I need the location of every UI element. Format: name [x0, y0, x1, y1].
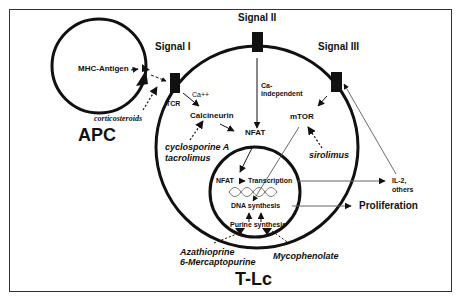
- signal1-label: Signal I: [155, 42, 191, 52]
- t-lymphocyte-label: T-Lc: [235, 270, 272, 288]
- purine-synthesis-label: Purine synthesis: [230, 221, 286, 228]
- signal3-receptor-icon: [331, 72, 342, 92]
- apc-label: APC: [78, 126, 116, 144]
- mtor-label: mTOR: [290, 113, 314, 121]
- dna-helix-icon: [229, 188, 277, 197]
- ca-independent-label-1: Ca-: [261, 82, 272, 89]
- mercaptopurine-label: 6-Mercaptopurine: [180, 258, 256, 267]
- proliferation-label: Proliferation: [359, 201, 418, 211]
- calcineurin-label: Calcineurin: [190, 112, 234, 120]
- sirolimus-label: sirolimus: [309, 151, 349, 160]
- nfat-nucleus-label: NFAT: [216, 177, 234, 184]
- signal3-label: Signal III: [318, 42, 359, 52]
- cyclosporine-label: cyclosporine A: [165, 143, 229, 152]
- dna-synthesis-label: DNA synthesis: [231, 202, 280, 209]
- mhc-antigen-wedges-icon: [136, 64, 150, 86]
- signal2-receptor-icon: [252, 32, 263, 52]
- ca-independent-label-2: independent: [261, 90, 303, 97]
- tcr-label: TCR: [166, 100, 180, 107]
- azathioprine-label: Azathioprine: [180, 248, 235, 257]
- mycophenolate-label: Mycophenolate: [273, 252, 339, 261]
- signal2-label: Signal II: [238, 13, 276, 23]
- transcription-label: Transcription: [248, 177, 292, 184]
- mhc-antigen-label: MHC-Antigen: [78, 65, 129, 73]
- tacrolimus-label: tacrolimus: [165, 154, 211, 163]
- tcr-receptor-icon: [170, 73, 180, 93]
- il2-label-1: IL-2,: [392, 177, 406, 184]
- calcium-label: Ca++: [192, 91, 209, 98]
- il2-label-2: others: [392, 186, 413, 193]
- nfat-label: NFAT: [245, 129, 265, 137]
- corticosteroids-label: corticosteroids: [94, 115, 142, 123]
